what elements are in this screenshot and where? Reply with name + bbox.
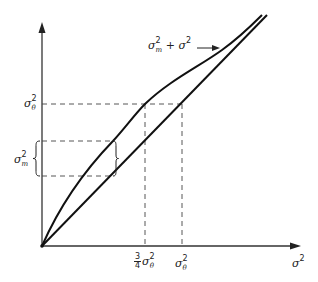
curve-label: σ2m + σ2 [148, 38, 191, 51]
x-axis-label: σ2 [292, 256, 305, 269]
bracket-label-sigma: σ [14, 153, 22, 166]
x-axis [42, 243, 301, 250]
x-tick-sigma-theta: σ2θ [175, 256, 187, 269]
y-axis-arrow-icon [39, 22, 46, 33]
y-tick-sup: 2 [32, 94, 37, 103]
arrow-right-icon [212, 45, 220, 51]
curve-label-arrow [197, 45, 220, 51]
bracket-label-sigma-m: σ2m [14, 152, 28, 165]
curve-label-sup: 2 [156, 36, 161, 45]
x-axis-label-sup: 2 [300, 254, 305, 263]
x-axis-arrow-icon [290, 243, 301, 250]
x-axis-label-sigma: σ [292, 257, 300, 270]
fraction-denominator: 4 [134, 262, 141, 270]
curve-label-rest: + σ [162, 39, 186, 52]
y-tick-sigma: σ [24, 97, 32, 110]
fraction-three-quarters: 34 [134, 253, 141, 270]
x-tick-2-sub: θ [183, 264, 187, 272]
x-tick-three-quarter-sigma-theta: 34σ2θ [134, 253, 154, 270]
y-tick-sigma-theta: σ2θ [24, 96, 36, 109]
x-tick-1-sup: 2 [150, 252, 155, 261]
x-tick-1-sub: θ [150, 262, 154, 270]
x-tick-2-sigma: σ [175, 257, 183, 270]
left-brace-icon [33, 141, 40, 176]
bracket-label-sub: m [22, 160, 29, 168]
origin-point [40, 244, 44, 248]
x-tick-2-sup: 2 [183, 254, 188, 263]
right-brace-icon [113, 141, 119, 176]
y-tick-sub: θ [32, 104, 36, 112]
y-axis [39, 22, 46, 246]
curve-label-sigma: σ [148, 39, 156, 52]
curve-label-rest-sup: 2 [186, 36, 191, 45]
bracket-label-sup: 2 [22, 150, 27, 159]
curve-label-sub: m [156, 46, 163, 54]
x-tick-1-sigma: σ [142, 255, 150, 268]
